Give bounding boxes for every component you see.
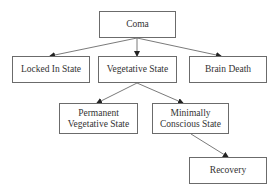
node-permanent-vegetative-state: Permanent Vegetative State	[59, 103, 138, 134]
node-label: Coma	[126, 19, 149, 30]
node-label: Recovery	[210, 165, 246, 176]
arrow-vegetative-to-minimally	[137, 83, 183, 103]
arrow-coma-to-locked	[50, 38, 137, 56]
node-label-line1: Minimally	[170, 108, 210, 119]
node-label-line2: Conscious State	[160, 119, 221, 130]
node-minimally-conscious-state: Minimally Conscious State	[152, 103, 229, 134]
node-coma: Coma	[99, 11, 176, 38]
arrow-minimally-to-recovery	[191, 134, 228, 157]
node-label: Locked In State	[21, 64, 81, 75]
node-recovery: Recovery	[189, 157, 267, 184]
arrow-coma-to-brain_death	[137, 38, 221, 56]
node-label: Brain Death	[205, 64, 251, 75]
node-brain-death: Brain Death	[189, 56, 267, 83]
node-vegetative-state: Vegetative State	[98, 56, 177, 83]
node-label-line2: Vegetative State	[68, 119, 129, 130]
node-label: Vegetative State	[107, 64, 168, 75]
arrow-vegetative-to-permanent	[97, 83, 137, 103]
node-locked-in-state: Locked In State	[12, 56, 90, 83]
node-label-line1: Permanent	[78, 108, 119, 119]
